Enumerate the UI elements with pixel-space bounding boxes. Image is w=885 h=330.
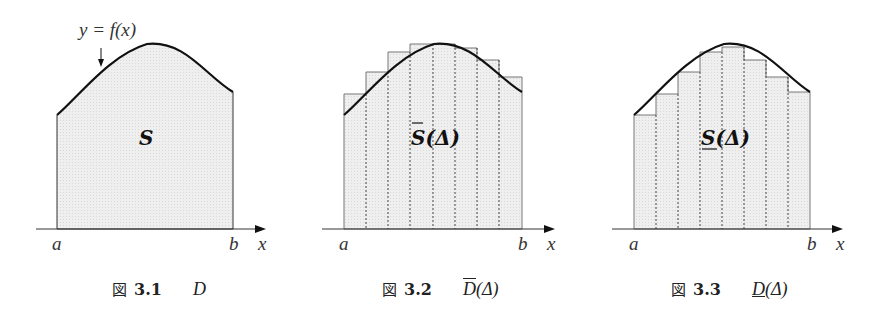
caption-symbol: D [193, 279, 206, 299]
fig2-label-b: b [518, 233, 528, 254]
caption-number: 3.3 [693, 280, 721, 299]
caption-number: 3.2 [404, 280, 432, 299]
caption-3-3: 図 3.3 D(Δ) [671, 278, 788, 300]
fig2-axis-arrow-icon [544, 225, 555, 233]
fig2-region-label: S(Δ) [411, 126, 460, 150]
fig3-label-b: b [807, 233, 817, 254]
fig1-region-label: S [139, 126, 153, 150]
fig2-label-a: a [339, 233, 349, 254]
zu-glyph: 図 [671, 281, 686, 299]
caption-symbol: D [463, 279, 476, 299]
caption-number: 3.1 [134, 280, 162, 299]
caption-symbol: D [752, 279, 765, 299]
fig1-curve-label: y = f(x) [77, 19, 136, 41]
fig3-label-x: x [835, 233, 845, 254]
zu-glyph: 図 [382, 281, 397, 299]
fig1-label-a: a [52, 233, 62, 254]
fig1-pointer-arrow-icon [98, 59, 104, 67]
zu-glyph: 図 [112, 281, 127, 299]
fig3-axis-arrow-icon [832, 225, 843, 233]
caption-symbol-suffix: (Δ) [476, 279, 499, 299]
fig3-label-a: a [629, 233, 639, 254]
caption-3-2: 図 3.2 D(Δ) [382, 278, 499, 300]
fig1-label-x: x [257, 233, 267, 254]
caption-3-1: 図 3.1 D [112, 278, 206, 300]
caption-symbol-suffix: (Δ) [765, 279, 788, 299]
fig3-region-label: S(Δ) [701, 126, 750, 150]
fig2-label-x: x [546, 233, 556, 254]
fig1-label-b: b [229, 233, 239, 254]
fig1-axis-arrow-icon [255, 225, 266, 233]
